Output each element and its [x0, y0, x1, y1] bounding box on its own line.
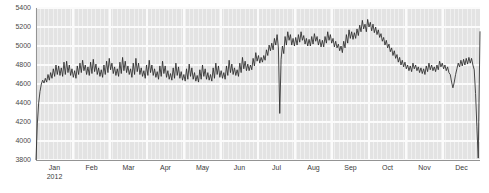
x-axis-year-label: 2012 [47, 173, 63, 180]
line-chart: 540052005000480046004400420040003800 Jan… [0, 0, 489, 193]
y-tick-label: 3800 [15, 156, 31, 163]
x-tick-label: Mar [122, 164, 135, 171]
x-tick-label: Nov [418, 164, 431, 171]
x-axis-tick-labels: JanFebMarAprMayJunJulAugSepOctNovDec2012 [47, 164, 469, 180]
y-tick-label: 5400 [15, 4, 31, 11]
y-tick-label: 4200 [15, 118, 31, 125]
x-tick-label: Jan [49, 164, 60, 171]
x-tick-label: Jul [272, 164, 281, 171]
y-tick-label: 4000 [15, 137, 31, 144]
x-tick-label: Oct [382, 164, 393, 171]
y-axis-tick-labels: 540052005000480046004400420040003800 [15, 4, 31, 163]
y-tick-label: 4600 [15, 80, 31, 87]
y-tick-label: 5000 [15, 42, 31, 49]
x-tick-label: Sep [344, 164, 357, 172]
x-tick-label: Feb [85, 164, 97, 171]
x-tick-label: Jun [234, 164, 245, 171]
x-tick-label: May [196, 164, 210, 172]
x-tick-label: Apr [160, 164, 172, 172]
y-tick-label: 4800 [15, 61, 31, 68]
x-tick-label: Dec [455, 164, 468, 171]
chart-container: 540052005000480046004400420040003800 Jan… [0, 0, 489, 193]
x-tick-label: Aug [307, 164, 320, 172]
y-tick-label: 5200 [15, 23, 31, 30]
y-tick-label: 4400 [15, 99, 31, 106]
